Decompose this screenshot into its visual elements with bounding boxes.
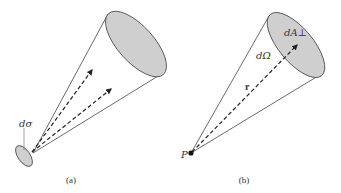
label-dOmega: dΩ: [256, 50, 271, 61]
label-r: r: [245, 81, 250, 92]
panel-b: P dΩ r dA⊥ (b): [180, 3, 335, 185]
panel-a: dσ (a): [12, 1, 177, 185]
label-dA-perp: dA⊥: [284, 27, 307, 38]
label-p: P: [180, 149, 188, 160]
caption-a: (a): [66, 175, 76, 185]
cone-side-lower: [33, 73, 163, 153]
diagram-canvas: dσ (a) P dΩ r dA⊥ (b): [0, 0, 341, 193]
perpendicular-area-ellipse: [257, 3, 334, 86]
point-p-dot: [188, 150, 193, 155]
caption-b: (b): [239, 175, 250, 185]
cone-side-upper: [33, 14, 108, 153]
label-dsigma: dσ: [19, 118, 33, 129]
cone-side-upper: [191, 16, 269, 153]
cone-base-ellipse: [95, 1, 177, 86]
